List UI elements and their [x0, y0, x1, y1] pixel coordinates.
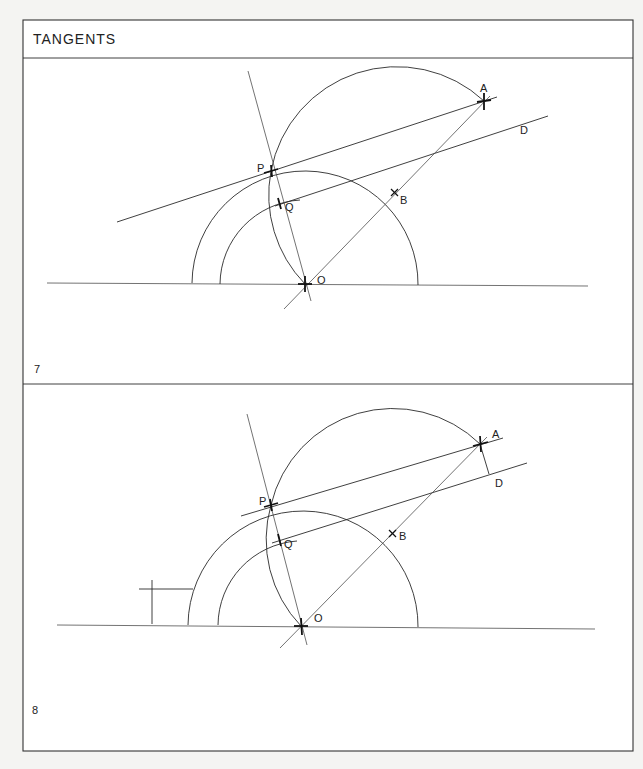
label-p: P	[259, 495, 266, 507]
page-title: TANGENTS	[33, 31, 116, 47]
label-p: P	[257, 162, 264, 174]
label-b: B	[400, 194, 407, 206]
label-q: Q	[285, 201, 294, 213]
label-b: B	[399, 530, 406, 542]
tangents-sheet: TANGENTS	[0, 0, 643, 769]
label-d: D	[495, 477, 503, 489]
label-a: A	[480, 82, 488, 94]
label-o: O	[314, 612, 323, 624]
label-a: A	[492, 428, 500, 440]
outer-frame	[23, 20, 633, 751]
label-d: D	[520, 124, 528, 136]
figure-number: 7	[34, 363, 40, 375]
figure-number: 8	[32, 704, 38, 716]
label-q: Q	[284, 538, 293, 550]
label-o: O	[317, 274, 326, 286]
